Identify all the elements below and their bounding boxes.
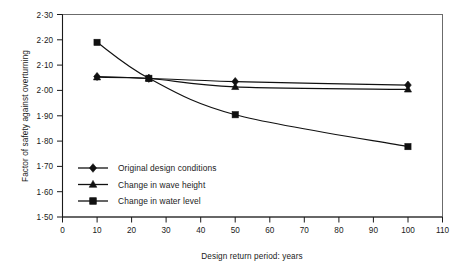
square-marker	[146, 75, 152, 81]
line-chart: 1·50 1·60 1·70 1·80 1·90 2·00 2·10 2·20 …	[0, 0, 465, 274]
x-tick-label: 90	[369, 226, 379, 235]
x-tick-label: 10	[93, 226, 103, 235]
x-tick-label: 110	[436, 226, 449, 235]
x-tick-label: 70	[300, 226, 310, 235]
x-tick-label: 20	[127, 226, 137, 235]
y-axis-tick-labels: 1·50 1·60 1·70 1·80 1·90 2·00 2·10 2·20 …	[37, 11, 54, 223]
square-marker	[232, 112, 238, 118]
y-tick-label: 1·90	[37, 112, 54, 121]
y-tick-label: 1·70	[37, 162, 54, 171]
y-tick-label: 1·60	[37, 188, 54, 197]
y-tick-label: 2·30	[37, 11, 54, 20]
square-marker	[405, 144, 411, 150]
square-marker	[94, 39, 100, 45]
y-tick-label: 1·50	[37, 213, 54, 222]
x-axis-title: Design return period: years	[201, 252, 302, 261]
y-tick-label: 1·80	[37, 137, 54, 146]
x-tick-label: 0	[60, 226, 65, 235]
y-tick-label: 2·20	[37, 36, 54, 45]
x-tick-label: 100	[401, 226, 415, 235]
chart-figure: 1·50 1·60 1·70 1·80 1·90 2·00 2·10 2·20 …	[0, 0, 465, 274]
x-tick-label: 80	[334, 226, 344, 235]
square-marker	[90, 198, 97, 205]
x-tick-label: 50	[231, 226, 241, 235]
x-tick-label: 30	[162, 226, 172, 235]
x-tick-label: 40	[196, 226, 206, 235]
legend-label: Change in wave height	[118, 180, 206, 190]
y-axis-title: Factor of safety against overturning	[21, 50, 30, 182]
y-tick-label: 2·00	[37, 86, 54, 95]
legend-label: Original design conditions	[118, 163, 217, 173]
y-tick-label: 2·10	[37, 61, 54, 70]
x-tick-label: 60	[265, 226, 275, 235]
legend-label: Change in water level	[118, 196, 201, 206]
